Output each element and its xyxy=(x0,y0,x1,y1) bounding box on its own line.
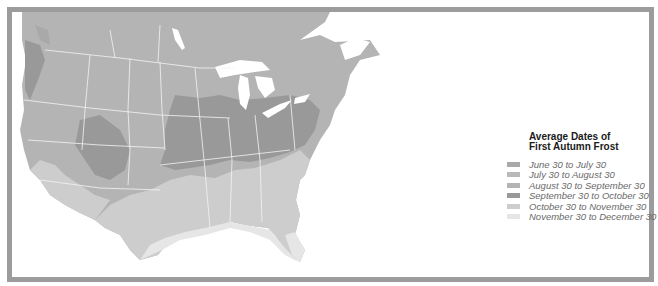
legend-label: June 30 to July 30 xyxy=(529,159,606,170)
legend: Average Dates of First Autumn Frost June… xyxy=(507,132,656,222)
legend-label: July 30 to August 30 xyxy=(529,169,615,180)
legend-swatch xyxy=(507,172,520,177)
legend-label: September 30 to October 30 xyxy=(529,190,649,201)
legend-label: August 30 to September 30 xyxy=(529,180,645,191)
legend-label: October 30 to November 30 xyxy=(529,201,646,212)
legend-item: July 30 to August 30 xyxy=(507,170,656,181)
legend-label: November 30 to December 30 xyxy=(529,211,656,222)
legend-swatch xyxy=(507,214,520,219)
legend-item: August 30 to September 30 xyxy=(507,180,656,191)
legend-swatch xyxy=(507,204,520,209)
legend-title-line2: First Autumn Frost xyxy=(529,142,656,152)
legend-swatch xyxy=(507,183,520,188)
legend-item: September 30 to October 30 xyxy=(507,191,656,202)
legend-item: June 30 to July 30 xyxy=(507,159,656,170)
legend-item: October 30 to November 30 xyxy=(507,201,656,212)
legend-title: Average Dates of First Autumn Frost xyxy=(529,132,656,152)
legend-swatch xyxy=(507,162,520,167)
legend-item: November 30 to December 30 xyxy=(507,212,656,223)
legend-swatch xyxy=(507,193,520,198)
